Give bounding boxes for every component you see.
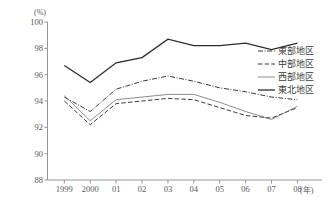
x-tick-label: 02 <box>138 184 147 194</box>
x-axis-unit-label: (年) <box>300 185 314 195</box>
x-axis-unit: (年) <box>300 185 314 195</box>
x-tick-label: 2000 <box>82 184 99 194</box>
y-tick-label: 96 <box>35 70 44 80</box>
legend-label-0: 東部地区 <box>278 45 314 56</box>
x-tick-label: 03 <box>164 184 173 194</box>
x-tick-label: 05 <box>215 184 224 194</box>
y-tick-label: 100 <box>30 17 43 27</box>
line-chart: (%) 889092949698100 19992000010203040506… <box>0 0 331 206</box>
chart-canvas: (%) 889092949698100 19992000010203040506… <box>0 0 331 206</box>
x-axis-tick-labels: 199920000102030405060708 <box>56 184 302 194</box>
x-tick-label: 1999 <box>56 184 73 194</box>
legend-label-2: 西部地区 <box>278 71 314 82</box>
series-line-0 <box>64 76 297 112</box>
x-tick-label: 04 <box>190 184 199 194</box>
y-tick-label: 94 <box>35 96 44 106</box>
y-axis-tick-labels: 889092949698100 <box>30 17 44 185</box>
x-axis-tick-marks <box>64 180 297 184</box>
x-tick-label: 07 <box>267 184 276 194</box>
x-tick-label: 01 <box>112 184 121 194</box>
series-line-3 <box>64 39 297 82</box>
series-line-1 <box>64 98 297 124</box>
chart-legend: 東部地区中部地区西部地区東北地区 <box>258 45 314 95</box>
y-axis-unit: (%) <box>34 8 46 17</box>
y-tick-label: 98 <box>35 43 44 53</box>
legend-label-1: 中部地区 <box>278 58 314 69</box>
series-lines <box>64 39 297 125</box>
x-tick-label: 06 <box>241 184 250 194</box>
y-tick-label: 90 <box>35 149 44 159</box>
y-tick-label: 88 <box>35 175 44 185</box>
y-tick-label: 92 <box>35 122 44 132</box>
y-axis-unit-label: (%) <box>34 8 46 17</box>
legend-label-3: 東北地区 <box>278 84 314 95</box>
